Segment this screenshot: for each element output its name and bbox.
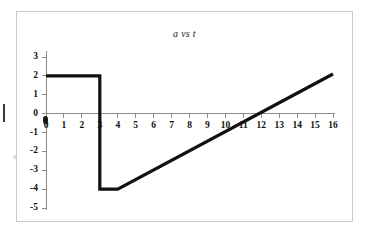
x-tick-label: 7	[165, 121, 179, 131]
y-tick-label: -4	[20, 184, 38, 194]
x-tick-label: 2	[75, 121, 89, 131]
plot-svg	[17, 12, 354, 223]
data-series-line	[46, 74, 333, 189]
x-tick-label: 3	[93, 121, 107, 131]
x-tick-label: 4	[111, 121, 125, 131]
tick-layer	[42, 57, 333, 208]
x-tick-label: 12	[254, 121, 268, 131]
origin-marker	[43, 116, 48, 124]
x-tick-label: 8	[183, 121, 197, 131]
x-tick-label: 6	[147, 121, 161, 131]
y-tick-label: -3	[20, 165, 38, 175]
chart-frame: a vs t 0123456789101112131415163210-1-2-…	[16, 11, 353, 222]
y-tick-label: 0	[20, 109, 38, 119]
x-tick-label: 10	[218, 121, 232, 131]
x-tick-label: 15	[308, 121, 322, 131]
x-tick-label: 11	[236, 121, 250, 131]
x-tick-label: 1	[57, 121, 71, 131]
plot-area: 0123456789101112131415163210-1-2-3-4-5	[17, 12, 354, 223]
x-tick-label: 9	[200, 121, 214, 131]
y-tick-label: -5	[20, 203, 38, 213]
y-tick-label: 3	[20, 52, 38, 62]
series-layer	[46, 74, 333, 189]
y-tick-label: -2	[20, 146, 38, 156]
y-tick-label: -1	[20, 128, 38, 138]
x-tick-label: 14	[290, 121, 304, 131]
y-tick-label: 2	[20, 71, 38, 81]
x-tick-label: 16	[326, 121, 340, 131]
page-edge-artifact	[3, 104, 5, 122]
x-tick-label: 13	[272, 121, 286, 131]
x-tick-label: 5	[129, 121, 143, 131]
y-tick-label: 1	[20, 90, 38, 100]
